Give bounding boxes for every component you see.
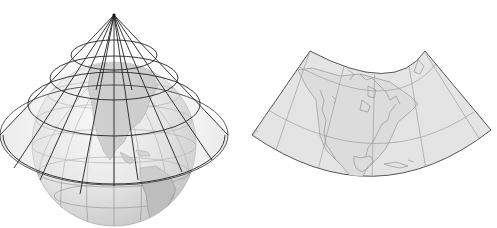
conic-map-svg	[250, 0, 497, 228]
globe-cone-svg	[0, 0, 250, 228]
globe-with-cone-diagram: Globe with tangent cone	[0, 0, 250, 228]
conic-map-diagram: Unrolled conic map of North America	[250, 0, 497, 228]
cone	[0, 13, 228, 194]
cone-apex	[112, 13, 115, 16]
